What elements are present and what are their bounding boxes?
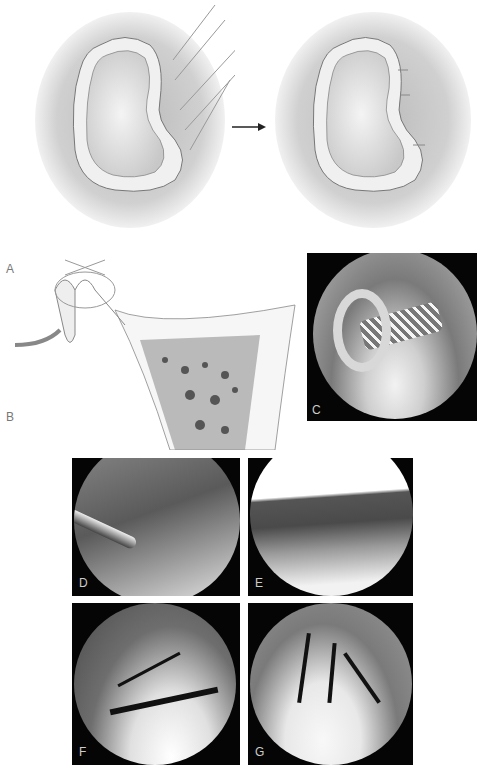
bone-anchor-illustration: [15, 250, 300, 450]
anchor-3-icon: [343, 652, 381, 703]
suture-icon: [117, 652, 180, 688]
label-B: B: [6, 410, 14, 424]
suture-passer-icon: [110, 687, 219, 716]
anchor-2-icon: [327, 643, 336, 703]
label-A: A: [6, 262, 14, 276]
panel-D: D: [72, 458, 240, 596]
bone-anchor-icon: [15, 250, 300, 450]
arthroscopic-view-D: [74, 458, 240, 596]
panel-E: E: [248, 458, 413, 596]
anchor-1-icon: [297, 633, 311, 703]
arrow-icon: [232, 119, 266, 131]
illustration-before: [25, 0, 235, 235]
label-D: D: [79, 576, 88, 590]
arthroscopic-view-F: [74, 603, 236, 765]
label-F: F: [79, 745, 86, 759]
meniscus-before-icon: [25, 0, 235, 235]
label-E: E: [255, 576, 263, 590]
needle-icon: [74, 508, 138, 551]
panel-F: F: [72, 603, 240, 765]
meniscus-after-icon: [268, 0, 478, 235]
label-C: C: [312, 403, 321, 417]
panel-C: C: [307, 253, 477, 421]
label-G: G: [255, 745, 264, 759]
arthroscopic-view-G: [250, 603, 412, 765]
arthroscopic-view-E: [250, 458, 413, 596]
cannula-icon: [333, 289, 391, 372]
arthroscopic-view-C: [313, 253, 477, 419]
illustration-after: [268, 0, 478, 235]
panel-G: G: [248, 603, 413, 765]
